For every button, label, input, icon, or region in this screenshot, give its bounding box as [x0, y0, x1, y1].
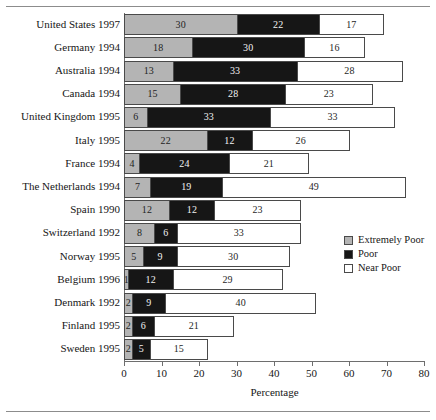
chart-legend: Extremely PoorPoorNear Poor [344, 234, 434, 276]
bar-segment-near[interactable]: 40 [165, 293, 316, 314]
stacked-bar[interactable]: 152823 [124, 84, 373, 105]
bar-segment-near[interactable]: 26 [252, 130, 351, 151]
stacked-bar[interactable]: 221226 [124, 130, 350, 151]
bar-segment-near[interactable]: 17 [319, 14, 384, 35]
x-axis-tick [237, 361, 238, 366]
stacked-bar[interactable]: 121223 [124, 200, 301, 221]
bar-segment-poor[interactable]: 19 [150, 177, 222, 198]
bar-segment-near[interactable]: 23 [214, 200, 301, 221]
y-axis-label: United States 1997 [4, 19, 120, 30]
bar-segment-poor[interactable]: 6 [132, 316, 156, 337]
bar-segment-extreme[interactable]: 6 [124, 107, 148, 128]
legend-swatch-extreme [344, 236, 353, 245]
segment-value-label: 5 [139, 344, 144, 354]
bar-segment-extreme[interactable]: 18 [124, 37, 193, 58]
legend-label: Near Poor [358, 263, 401, 274]
segment-value-label: 49 [309, 182, 319, 192]
bar-segment-near[interactable]: 33 [270, 107, 395, 128]
bar-segment-poor[interactable]: 22 [237, 14, 321, 35]
x-axis-tick-label: 40 [269, 368, 280, 379]
segment-value-label: 6 [141, 321, 146, 331]
bar-segment-near[interactable]: 28 [297, 61, 403, 82]
bar-segment-near[interactable]: 21 [229, 153, 309, 174]
x-axis-tick-label: 0 [121, 368, 127, 379]
stacked-bar[interactable]: 2515 [124, 339, 208, 360]
segment-value-label: 22 [161, 136, 171, 146]
segment-value-label: 21 [189, 321, 199, 331]
segment-value-label: 9 [146, 298, 151, 308]
bar-segment-poor[interactable]: 12 [128, 269, 174, 290]
bar-row: 152823 [124, 84, 424, 105]
segment-value-label: 23 [324, 89, 334, 99]
bar-segment-extreme[interactable]: 22 [124, 130, 208, 151]
bar-segment-near[interactable]: 23 [285, 84, 372, 105]
bar-segment-poor[interactable]: 30 [192, 37, 306, 58]
legend-item[interactable]: Poor [344, 248, 434, 261]
stacked-bar[interactable]: 63333 [124, 107, 395, 128]
bar-segment-extreme[interactable]: 15 [124, 84, 181, 105]
bar-segment-near[interactable]: 49 [222, 177, 407, 198]
legend-item[interactable]: Near Poor [344, 262, 434, 275]
stacked-bar[interactable]: 2621 [124, 316, 234, 337]
legend-item[interactable]: Extremely Poor [344, 234, 434, 247]
segment-value-label: 12 [146, 275, 156, 285]
bar-segment-extreme[interactable]: 7 [124, 177, 151, 198]
bar-segment-near[interactable]: 29 [173, 269, 283, 290]
x-axis-tick [162, 361, 163, 366]
bar-row: 2621 [124, 316, 424, 337]
bar-segment-poor[interactable]: 9 [143, 246, 178, 267]
bar-segment-poor[interactable]: 33 [147, 107, 272, 128]
bar-row: 2940 [124, 293, 424, 314]
bar-segment-poor[interactable]: 12 [169, 200, 215, 221]
stacked-bar[interactable]: 183016 [124, 37, 365, 58]
bar-segment-near[interactable]: 30 [177, 246, 291, 267]
bar-row: 121223 [124, 200, 424, 221]
bar-segment-near[interactable]: 15 [150, 339, 207, 360]
bar-segment-poor[interactable]: 9 [132, 293, 167, 314]
stacked-bar[interactable]: 133328 [124, 61, 403, 82]
segment-value-label: 6 [133, 112, 138, 122]
bar-segment-extreme[interactable]: 13 [124, 61, 174, 82]
segment-value-label: 18 [153, 43, 163, 53]
y-axis-category-labels: United States 1997Germany 1994Australia … [0, 13, 120, 361]
bar-segment-extreme[interactable]: 4 [124, 153, 140, 174]
stacked-bar[interactable]: 8633 [124, 223, 301, 244]
bar-segment-poor[interactable]: 28 [180, 84, 286, 105]
bar-segment-near[interactable]: 21 [154, 316, 234, 337]
x-axis-tick-label: 20 [194, 368, 205, 379]
x-axis-tick-label: 70 [381, 368, 392, 379]
stacked-bar[interactable]: 5930 [124, 246, 290, 267]
stacked-bar[interactable]: 42421 [124, 153, 309, 174]
plot-area: 3022171830161333281528236333322122642421… [124, 13, 424, 361]
segment-value-label: 12 [224, 136, 234, 146]
bar-segment-poor[interactable]: 33 [173, 61, 298, 82]
segment-value-label: 17 [346, 20, 356, 30]
y-axis-label: Australia 1994 [4, 65, 120, 76]
bar-segment-near[interactable]: 16 [304, 37, 365, 58]
bar-segment-poor[interactable]: 24 [139, 153, 230, 174]
bar-segment-extreme[interactable]: 8 [124, 223, 155, 244]
bar-segment-extreme[interactable]: 12 [124, 200, 170, 221]
stacked-bar[interactable]: 71949 [124, 177, 406, 198]
stacked-bar[interactable]: 302217 [124, 14, 384, 35]
stacked-bar[interactable]: 11229 [124, 269, 283, 290]
x-axis-tick [199, 361, 200, 366]
y-axis-label: Switzerland 1992 [4, 227, 120, 238]
bar-segment-near[interactable]: 33 [177, 223, 302, 244]
y-axis-label: Norway 1995 [4, 251, 120, 262]
segment-value-label: 23 [252, 205, 262, 215]
y-axis-label: The Netherlands 1994 [4, 181, 120, 192]
segment-value-label: 21 [264, 159, 274, 169]
bar-segment-extreme[interactable]: 5 [124, 246, 144, 267]
bar-segment-extreme[interactable]: 30 [124, 14, 238, 35]
bar-segment-poor[interactable]: 12 [207, 130, 253, 151]
stacked-bar[interactable]: 2940 [124, 293, 316, 314]
y-axis-label: Spain 1990 [4, 204, 120, 215]
y-axis-label: Canada 1994 [4, 88, 120, 99]
bar-segment-poor[interactable]: 6 [154, 223, 178, 244]
legend-swatch-near [344, 264, 353, 273]
bar-segment-poor[interactable]: 5 [132, 339, 152, 360]
segment-value-label: 28 [344, 66, 354, 76]
figure: United States 1997Germany 1994Australia … [0, 0, 436, 420]
segment-value-label: 2 [126, 321, 131, 331]
